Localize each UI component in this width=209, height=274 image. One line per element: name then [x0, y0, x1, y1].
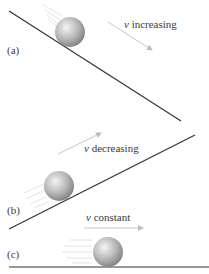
caption-a: v increasing — [124, 18, 177, 30]
panel-c: (c) v constant — [7, 211, 209, 267]
panel-label-b: (b) — [7, 204, 20, 217]
panel-label-c: (c) — [7, 248, 20, 261]
panel-label-a: (a) — [7, 44, 20, 57]
caption-b: v decreasing — [84, 142, 139, 154]
motion-diagram: (a) v increasing (b) v decreasing (c) v … — [0, 0, 209, 274]
ball-b — [44, 171, 74, 201]
caption-c: v constant — [86, 211, 130, 223]
ball-a — [55, 17, 85, 47]
motion-lines-c — [62, 240, 92, 263]
ball-c — [93, 237, 123, 267]
panel-a: (a) v increasing — [7, 4, 181, 121]
